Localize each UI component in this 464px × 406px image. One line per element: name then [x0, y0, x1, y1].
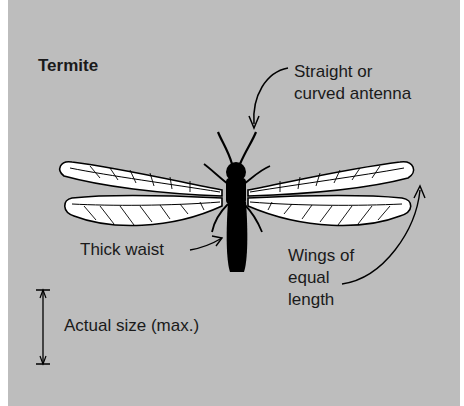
waist-label: Thick waist [80, 240, 164, 260]
right-wings [248, 162, 414, 226]
left-wings [60, 162, 222, 226]
wings-label-line1: Wings of [288, 246, 354, 266]
wings-label-line2: equal [288, 268, 330, 288]
size-label: Actual size (max.) [64, 316, 199, 336]
antenna-pointer-arrow [254, 68, 288, 124]
size-scale-bar [36, 290, 50, 364]
antenna-label-line2: curved antenna [294, 84, 411, 104]
antenna-label-line1: Straight or [294, 62, 372, 82]
diagram-title: Termite [38, 56, 98, 76]
wings-label-line3: length [288, 290, 334, 310]
